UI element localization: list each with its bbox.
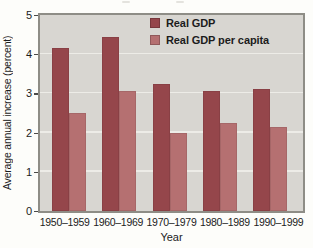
y-tick-label-3: 3 <box>0 87 32 99</box>
y-axis-title: Average annual increase (percent) <box>1 13 15 212</box>
y-tick-mark-0 <box>34 211 38 212</box>
x-tick-label-5: 1990–1999 <box>252 216 305 228</box>
gdp-growth-bar-chart: Average annual increase (percent) Real G… <box>0 0 313 248</box>
bar-real-gdp-1 <box>52 48 69 211</box>
y-tick-label-2: 2 <box>0 127 32 139</box>
y-tick-label-5: 5 <box>0 9 32 21</box>
x-axis-title: Year <box>38 231 305 243</box>
y-tick-label-4: 4 <box>0 48 32 60</box>
bar-real-gdp-per-capita-3 <box>170 133 187 211</box>
y-tick-mark-5 <box>34 15 38 16</box>
bar-real-gdp-per-capita-4 <box>220 123 237 211</box>
legend-swatch-icon <box>150 18 160 28</box>
bar-real-gdp-3 <box>153 84 170 211</box>
y-tick-mark-4 <box>34 54 38 55</box>
x-tick-label-1: 1950–1959 <box>38 216 91 228</box>
legend: Real GDPReal GDP per capita <box>150 17 269 51</box>
bar-real-gdp-per-capita-5 <box>270 127 287 211</box>
legend-item-2: Real GDP per capita <box>150 34 269 46</box>
bar-real-gdp-2 <box>102 37 119 211</box>
x-axis-tick-labels: 1950–19591960–19691970–19791980–19891990… <box>38 216 305 228</box>
legend-item-1: Real GDP <box>150 17 269 29</box>
x-tick-label-3: 1970–1979 <box>145 216 198 228</box>
y-tick-label-0: 0 <box>0 205 32 217</box>
cropped-text-artifact <box>176 1 184 3</box>
bar-group-2 <box>94 15 144 211</box>
bar-group-1 <box>44 15 94 211</box>
x-tick-label-2: 1960–1969 <box>91 216 144 228</box>
y-tick-mark-2 <box>34 133 38 134</box>
bar-real-gdp-per-capita-2 <box>119 91 136 211</box>
bar-real-gdp-per-capita-1 <box>69 113 86 211</box>
cropped-text-artifact <box>122 1 130 3</box>
bar-real-gdp-4 <box>203 91 220 211</box>
x-tick-label-4: 1980–1989 <box>198 216 251 228</box>
legend-label: Real GDP per capita <box>166 34 269 46</box>
y-tick-mark-1 <box>34 172 38 173</box>
y-tick-label-1: 1 <box>0 166 32 178</box>
legend-label: Real GDP <box>166 17 215 29</box>
y-tick-mark-3 <box>34 93 38 94</box>
legend-swatch-icon <box>150 35 160 45</box>
bar-real-gdp-5 <box>253 89 270 211</box>
